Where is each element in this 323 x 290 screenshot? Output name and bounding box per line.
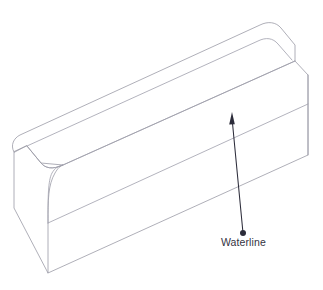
isometric-hull-drawing: Waterline — [0, 0, 323, 290]
waterline-label: Waterline — [221, 236, 266, 248]
diagram-canvas: Waterline — [0, 0, 323, 290]
